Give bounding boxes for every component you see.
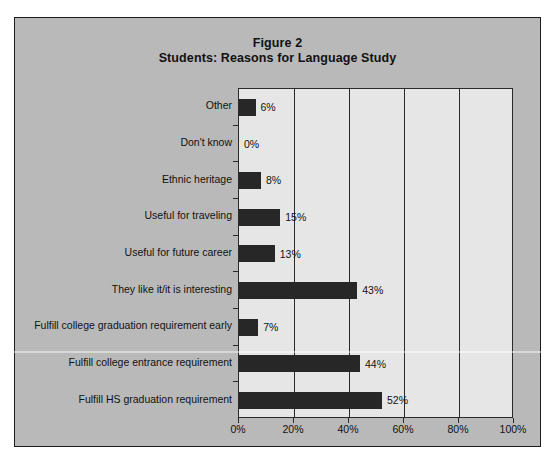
x-axis-tick-label: 40% [337,424,358,435]
category-label: Fulfill HS graduation requirement [16,394,238,405]
bar-value-label: 6% [261,102,276,113]
bar-row: 15% [239,199,512,236]
bar [239,245,275,262]
bar-row: 6% [239,89,512,126]
bar [239,355,360,372]
category-label: Fulfill college graduation requirement e… [16,320,238,331]
bar-row: 52% [239,382,512,419]
bar [239,209,280,226]
bar-value-label: 0% [244,139,259,150]
bar-value-label: 52% [387,395,408,406]
bar-row: 44% [239,346,512,383]
category-label: Ethnic heritage [16,174,238,185]
bar-value-label: 7% [263,322,278,333]
category-label: Don't know [16,137,238,148]
bar-row: 43% [239,272,512,309]
category-axis-labels: OtherDon't knowEthnic heritageUseful for… [15,88,238,418]
x-axis-tick-label: 0% [230,424,245,435]
figure-panel: Figure 2 Students: Reasons for Language … [14,17,541,447]
bar-row: 0% [239,126,512,163]
bar [239,282,357,299]
figure-root: Figure 2 Students: Reasons for Language … [0,0,560,470]
bar-value-label: 43% [362,285,383,296]
bar [239,319,258,336]
bar-row: 13% [239,236,512,273]
category-label: Other [16,100,238,111]
figure-number-label: Figure 2 [253,36,302,50]
bar [239,172,261,189]
plot-area: 6%0%8%15%13%43%7%44%52% [238,88,513,418]
chart-title: Figure 2 Students: Reasons for Language … [15,36,540,66]
x-axis-tick-label: 20% [282,424,303,435]
category-label: Fulfill college entrance requirement [16,357,238,368]
bar [239,392,382,409]
category-label: Useful for future career [16,247,238,258]
bar-row: 8% [239,162,512,199]
category-label: Useful for traveling [16,210,238,221]
x-axis-tick-label: 60% [392,424,413,435]
bar-value-label: 8% [266,175,281,186]
category-label: They like it/it is interesting [16,284,238,295]
bar-value-label: 15% [285,212,306,223]
bar-row: 7% [239,309,512,346]
bar-value-label: 44% [365,359,386,370]
bar [239,99,256,116]
chart-subtitle-label: Students: Reasons for Language Study [15,51,540,66]
x-axis-tick-label: 100% [500,424,527,435]
x-axis-tick-label: 80% [447,424,468,435]
bar-value-label: 13% [280,249,301,260]
